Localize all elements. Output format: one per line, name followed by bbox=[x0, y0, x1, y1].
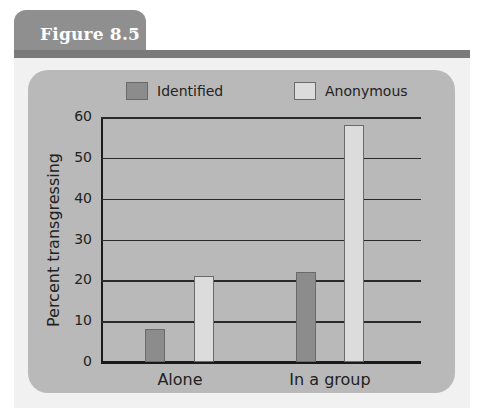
legend-swatch-anonymous bbox=[294, 82, 316, 100]
gridline bbox=[101, 158, 421, 160]
bar-anonymous-alone bbox=[194, 276, 214, 362]
header-bar bbox=[14, 50, 470, 58]
bar-identified-in-a-group bbox=[296, 272, 316, 362]
y-tick-label: 20 bbox=[62, 271, 92, 287]
legend-item-identified: Identified bbox=[126, 82, 223, 100]
gridline bbox=[101, 321, 421, 323]
gridline bbox=[101, 117, 421, 119]
gridline bbox=[101, 199, 421, 201]
legend-label-anonymous: Anonymous bbox=[325, 83, 408, 99]
y-axis-label: Percent transgressing bbox=[44, 153, 63, 327]
y-tick-label: 0 bbox=[62, 353, 92, 369]
gridline bbox=[101, 240, 421, 242]
legend-swatch-identified bbox=[126, 82, 148, 100]
x-tick-alone: Alone bbox=[140, 370, 220, 389]
y-tick-label: 60 bbox=[62, 108, 92, 124]
plot-area bbox=[101, 117, 421, 362]
bar-anonymous-in-a-group bbox=[344, 125, 364, 362]
y-tick-label: 40 bbox=[62, 190, 92, 206]
x-tick-in-a-group: In a group bbox=[280, 370, 380, 389]
figure-tab: Figure 8.5 bbox=[14, 10, 146, 52]
bar-identified-alone bbox=[145, 329, 165, 362]
y-tick-label: 30 bbox=[62, 231, 92, 247]
gridline bbox=[101, 280, 421, 282]
legend-item-anonymous: Anonymous bbox=[294, 82, 408, 100]
figure-label: Figure 8.5 bbox=[40, 24, 140, 44]
legend-label-identified: Identified bbox=[157, 83, 223, 99]
y-tick-label: 50 bbox=[62, 149, 92, 165]
y-tick-label: 10 bbox=[62, 312, 92, 328]
